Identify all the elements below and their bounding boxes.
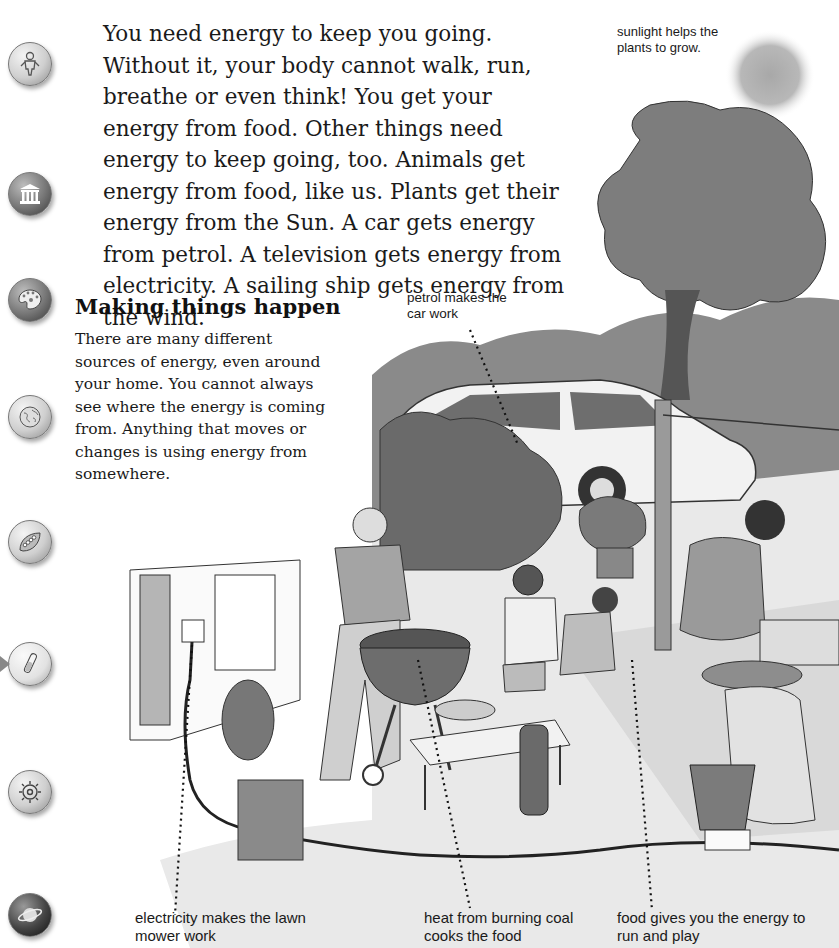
caption-sunlight: sunlight helps the plants to grow.	[617, 24, 727, 56]
caption-electricity: electricity makes the lawn mower work	[135, 909, 310, 945]
garden-energy-illustration	[0, 0, 839, 948]
caption-petrol: petrol makes the car work	[407, 290, 517, 322]
caption-food: food gives you the energy to run and pla…	[617, 909, 812, 945]
sun-icon	[725, 30, 815, 120]
caption-heat: heat from burning coal cooks the food	[424, 909, 594, 945]
